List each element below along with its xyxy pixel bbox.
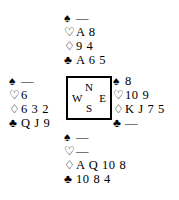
hand-east-spades-row: ♠ 8 bbox=[113, 74, 165, 88]
spade-icon: ♠ bbox=[64, 11, 75, 25]
compass-label-west: W bbox=[72, 93, 82, 104]
hand-west-spades-row: ♠ — bbox=[9, 74, 50, 88]
hand-north-spades-row: ♠ — bbox=[64, 11, 106, 25]
hand-south-spades: — bbox=[76, 130, 89, 144]
hand-east: ♠ 8 ♡ 10 9 ♢ K J 7 5 ♣ — bbox=[113, 74, 165, 130]
club-icon: ♣ bbox=[64, 172, 75, 186]
hand-east-clubs: — bbox=[125, 116, 138, 130]
hand-south-spades-row: ♠ — bbox=[64, 130, 126, 144]
heart-icon: ♡ bbox=[64, 25, 75, 39]
hand-north-diamonds: 9 4 bbox=[76, 39, 93, 53]
hand-north-spades: — bbox=[76, 11, 89, 25]
hand-south-clubs-row: ♣ 10 8 4 bbox=[64, 172, 126, 186]
diamond-icon: ♢ bbox=[113, 102, 124, 116]
diamond-icon: ♢ bbox=[64, 158, 75, 172]
hand-west-clubs-row: ♣ Q J 9 bbox=[9, 116, 50, 130]
spade-icon: ♠ bbox=[9, 74, 20, 88]
compass-box: N W E S bbox=[66, 76, 112, 120]
hand-south-diamonds: A Q 10 8 bbox=[76, 158, 126, 172]
hand-north-hearts: A 8 bbox=[76, 25, 96, 39]
hand-north: ♠ — ♡ A 8 ♢ 9 4 ♣ A 6 5 bbox=[64, 11, 106, 67]
club-icon: ♣ bbox=[9, 116, 20, 130]
heart-icon: ♡ bbox=[9, 88, 20, 102]
heart-icon: ♡ bbox=[64, 144, 75, 158]
hand-east-diamonds: K J 7 5 bbox=[125, 102, 165, 116]
hand-west-diamonds: 6 3 2 bbox=[21, 102, 49, 116]
hand-south: ♠ — ♡ — ♢ A Q 10 8 ♣ 10 8 4 bbox=[64, 130, 126, 186]
hand-west-hearts-row: ♡ 6 bbox=[9, 88, 50, 102]
hand-west-spades: — bbox=[21, 74, 34, 88]
hand-east-hearts: 10 9 bbox=[125, 88, 149, 102]
hand-north-diamonds-row: ♢ 9 4 bbox=[64, 39, 106, 53]
hand-east-hearts-row: ♡ 10 9 bbox=[113, 88, 165, 102]
diamond-icon: ♢ bbox=[64, 39, 75, 53]
compass-label-east: E bbox=[99, 93, 106, 104]
hand-east-diamonds-row: ♢ K J 7 5 bbox=[113, 102, 165, 116]
hand-north-clubs-row: ♣ A 6 5 bbox=[64, 53, 106, 67]
hand-west: ♠ — ♡ 6 ♢ 6 3 2 ♣ Q J 9 bbox=[9, 74, 50, 130]
hand-south-hearts-row: ♡ — bbox=[64, 144, 126, 158]
hand-east-spades: 8 bbox=[125, 74, 132, 88]
hand-west-hearts: 6 bbox=[21, 88, 28, 102]
compass-label-south: S bbox=[68, 103, 110, 114]
hand-north-clubs: A 6 5 bbox=[76, 53, 106, 67]
hand-west-clubs: Q J 9 bbox=[21, 116, 50, 130]
diamond-icon: ♢ bbox=[9, 102, 20, 116]
club-icon: ♣ bbox=[113, 116, 124, 130]
club-icon: ♣ bbox=[64, 53, 75, 67]
spade-icon: ♠ bbox=[64, 130, 75, 144]
hand-south-diamonds-row: ♢ A Q 10 8 bbox=[64, 158, 126, 172]
hand-east-clubs-row: ♣ — bbox=[113, 116, 165, 130]
hand-west-diamonds-row: ♢ 6 3 2 bbox=[9, 102, 50, 116]
spade-icon: ♠ bbox=[113, 74, 124, 88]
bridge-deal-diagram: ♠ — ♡ A 8 ♢ 9 4 ♣ A 6 5 ♠ — ♡ 6 ♢ 6 3 2 bbox=[0, 0, 179, 200]
heart-icon: ♡ bbox=[113, 88, 124, 102]
hand-north-hearts-row: ♡ A 8 bbox=[64, 25, 106, 39]
hand-south-hearts: — bbox=[76, 144, 89, 158]
hand-south-clubs: 10 8 4 bbox=[76, 172, 111, 186]
